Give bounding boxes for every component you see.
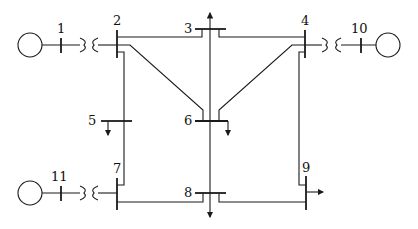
transformer-1-2: [80, 38, 117, 52]
generator-11: 11: [18, 169, 80, 205]
bus-8: 8: [184, 185, 226, 200]
bus-label-4: 4: [301, 13, 309, 28]
bus-label-9: 9: [302, 160, 310, 175]
bus-label-8: 8: [184, 185, 192, 200]
bus-4: 4: [301, 13, 309, 58]
line-2-6: [117, 45, 203, 121]
power-system-diagram: 1 2 3 4 10: [0, 0, 418, 229]
line-8-9: [219, 193, 306, 202]
bus-label-7: 7: [113, 161, 121, 176]
bus-label-1: 1: [57, 21, 65, 36]
bus-label-10: 10: [351, 21, 368, 36]
bus-label-6: 6: [184, 113, 192, 128]
bus-label-2: 2: [113, 13, 121, 28]
transformer-11-7: [80, 186, 117, 200]
bus-3: 3: [184, 21, 226, 36]
bus-label-5: 5: [88, 113, 96, 128]
bus-label-11: 11: [51, 169, 68, 184]
bus-label-3: 3: [184, 21, 192, 36]
transformer-4-10: [305, 38, 376, 52]
line-4-6: [219, 45, 305, 121]
generator-10: 10: [351, 21, 400, 57]
generator-1: 1: [18, 21, 80, 57]
bus-2: 2: [113, 13, 121, 58]
bus-5: 5: [88, 113, 132, 128]
bus-6: 6: [184, 113, 228, 128]
line-3-4: [219, 29, 305, 37]
